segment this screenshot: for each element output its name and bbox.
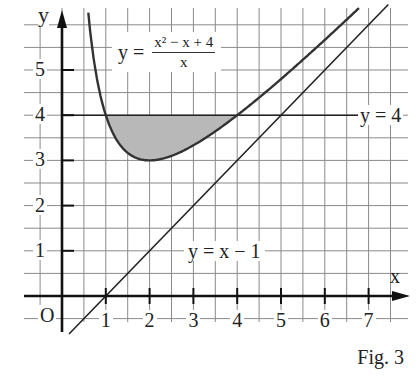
curve-equation-numerator: x² − x + 4 (152, 35, 215, 53)
figure-caption: Fig. 3 (357, 346, 404, 369)
x-tick-label: 1 (99, 310, 113, 330)
x-tick-label: 2 (143, 310, 157, 330)
origin-label: O (38, 305, 56, 325)
x-tick-label: 6 (318, 310, 332, 330)
x-tick-label: 3 (186, 310, 200, 330)
y-tick-label: 2 (33, 195, 47, 215)
x-tick-label: 4 (230, 310, 244, 330)
y-axis-label: y (38, 4, 49, 26)
curve-equation-lhs: y = (118, 42, 144, 62)
curve-equation-denominator: x (180, 53, 188, 70)
y-tick-label: 1 (33, 240, 47, 260)
curve-equation-label: y = x² − x + 4 x (112, 32, 221, 72)
y-tick-label: 5 (33, 59, 47, 79)
x-tick-label: 7 (362, 310, 376, 330)
y-tick-label: 4 (33, 104, 47, 124)
horizontal-line-label: y = 4 (358, 105, 403, 125)
x-axis-label: x (390, 266, 400, 286)
curve-equation-fraction: x² − x + 4 x (152, 35, 215, 70)
diagonal-line-label: y = x − 1 (184, 241, 265, 261)
x-tick-label: 5 (274, 310, 288, 330)
y-tick-label: 3 (33, 149, 47, 169)
